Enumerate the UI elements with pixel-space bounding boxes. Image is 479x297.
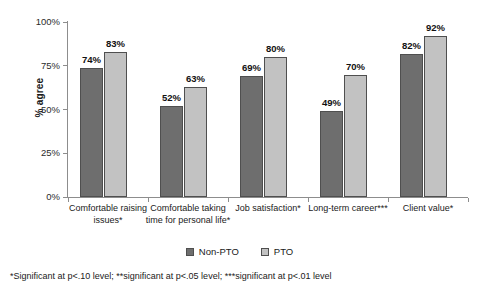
x-tick-mark	[388, 198, 389, 202]
bar-group: 69%80%	[228, 22, 308, 197]
x-axis-category-label: Long-term career***	[305, 203, 391, 215]
bar-value-label: 49%	[322, 97, 341, 108]
x-tick-mark	[228, 198, 229, 202]
x-axis-category-label: Client value*	[385, 203, 471, 215]
bar-value-label: 82%	[402, 40, 421, 51]
bar-group: 52%63%	[148, 22, 228, 197]
chart-legend: Non-PTOPTO	[0, 247, 479, 257]
x-axis-line	[67, 197, 468, 198]
y-tick-mark	[63, 65, 67, 66]
y-tick-label: 0%	[46, 190, 60, 203]
legend-item[interactable]: PTO	[261, 247, 293, 257]
bar-group: 74%83%	[68, 22, 148, 197]
bar-pto: 92%	[424, 36, 447, 197]
y-tick-mark	[63, 197, 67, 198]
bar-non-pto: 82%	[400, 54, 423, 198]
bar-group: 82%92%	[388, 22, 468, 197]
x-axis-category-label: Comfortable raising issues*	[65, 203, 151, 226]
significance-footnote: *Significant at p<.10 level; **significa…	[10, 270, 331, 282]
y-tick-mark	[63, 22, 67, 23]
bar-value-label: 70%	[346, 61, 365, 72]
y-tick-label: 25%	[41, 146, 60, 159]
bar-chart-figure: % agree 0%25%50%75%100% 74%83%52%63%69%8…	[0, 0, 479, 297]
y-tick-mark	[63, 153, 67, 154]
y-tick-label: 100%	[36, 15, 60, 28]
bar-value-label: 74%	[82, 54, 101, 65]
bar-group: 49%70%	[308, 22, 388, 197]
x-tick-mark	[308, 198, 309, 202]
bar-value-label: 52%	[162, 92, 181, 103]
bar-value-label: 63%	[186, 73, 205, 84]
legend-label: PTO	[274, 247, 293, 257]
x-tick-mark	[468, 198, 469, 202]
bar-non-pto: 49%	[320, 111, 343, 197]
plot-area: 74%83%52%63%69%80%49%70%82%92%	[68, 22, 468, 197]
bar-value-label: 69%	[242, 62, 261, 73]
legend-swatch-icon	[261, 248, 269, 256]
bar-pto: 70%	[344, 75, 367, 198]
y-tick-label: 50%	[41, 103, 60, 116]
x-tick-mark	[68, 198, 69, 202]
legend-swatch-icon	[186, 248, 194, 256]
y-tick-mark	[63, 109, 67, 110]
bar-non-pto: 74%	[80, 68, 103, 198]
bar-non-pto: 52%	[160, 106, 183, 197]
bar-value-label: 83%	[106, 38, 125, 49]
bar-pto: 83%	[104, 52, 127, 197]
x-axis-category-label: Comfortable taking time for personal lif…	[145, 203, 231, 226]
x-tick-mark	[148, 198, 149, 202]
bar-non-pto: 69%	[240, 76, 263, 197]
bar-pto: 63%	[184, 87, 207, 197]
bar-value-label: 92%	[426, 22, 445, 33]
legend-label: Non-PTO	[199, 247, 239, 257]
x-axis-category-label: Job satisfaction*	[225, 203, 311, 215]
y-tick-label: 75%	[41, 59, 60, 72]
bar-value-label: 80%	[266, 43, 285, 54]
legend-item[interactable]: Non-PTO	[186, 247, 239, 257]
bar-pto: 80%	[264, 57, 287, 197]
